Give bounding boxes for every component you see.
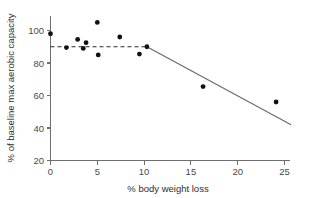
x-tick-label-10: 10 (139, 166, 150, 177)
y-tick-label-80: 80 (33, 58, 44, 69)
scatter-chart: 100 80 60 40 20 0 5 10 15 20 25 % body w… (0, 0, 309, 198)
y-tick-label-60: 60 (33, 90, 44, 101)
y-axis-tick-labels: 100 80 60 40 20 (28, 25, 44, 166)
data-point (84, 40, 89, 45)
data-point (274, 100, 279, 105)
y-tick-label-40: 40 (33, 123, 44, 134)
data-point (137, 52, 142, 57)
plot-area: 100 80 60 40 20 0 5 10 15 20 25 % body w… (0, 0, 309, 198)
y-axis-title: % of baseline max aerobic capacity (5, 13, 16, 162)
x-axis-ticks (51, 161, 285, 165)
x-axis-tick-labels: 0 5 10 15 20 25 (48, 166, 290, 177)
data-point (75, 37, 80, 42)
data-point (64, 45, 69, 50)
x-tick-label-20: 20 (232, 166, 243, 177)
data-point (145, 44, 150, 49)
x-tick-label-25: 25 (279, 166, 290, 177)
data-point (117, 35, 122, 40)
x-tick-label-5: 5 (95, 166, 100, 177)
data-point (95, 20, 100, 25)
x-tick-label-0: 0 (48, 166, 53, 177)
y-tick-label-100: 100 (28, 25, 44, 36)
y-axis-ticks (47, 31, 51, 161)
x-axis-title: % body weight loss (127, 183, 209, 194)
data-point (96, 52, 101, 57)
decline-segment (147, 47, 291, 125)
data-point (48, 31, 53, 36)
data-point (81, 46, 86, 51)
x-tick-label-15: 15 (186, 166, 197, 177)
data-points (48, 20, 278, 104)
data-point (201, 84, 206, 89)
fit-lines (51, 47, 292, 125)
y-tick-label-20: 20 (33, 155, 44, 166)
